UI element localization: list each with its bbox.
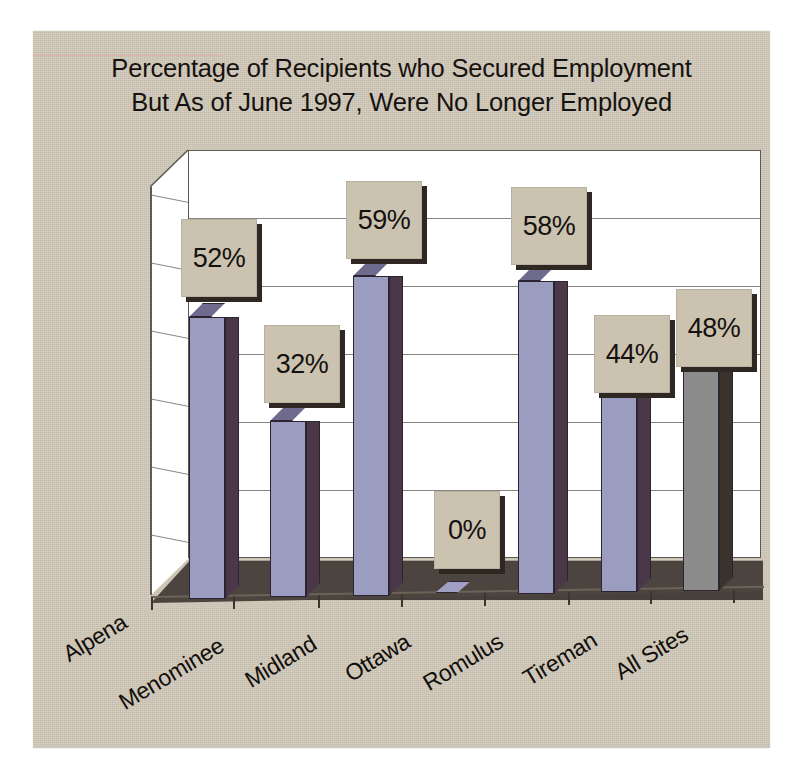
axis-tick	[650, 591, 652, 604]
bar-front-face	[683, 330, 719, 591]
axis-tick	[233, 596, 235, 609]
axis-tick	[401, 594, 403, 607]
data-label-menominee: 32%	[264, 325, 340, 403]
bar-side-face	[554, 281, 568, 594]
plot-area: 52% 32% 59% 0% 58% 44% 48%	[118, 141, 738, 621]
chart-title-line-1: Percentage of Recipients who Secured Emp…	[111, 54, 691, 82]
bar-side-face	[225, 317, 239, 599]
data-label-tireman-2: 44%	[594, 315, 670, 393]
cat-label-midland: Midland	[241, 632, 320, 692]
cat-label-ottawa: Ottawa	[341, 630, 414, 686]
cat-label-tireman: Tireman	[519, 628, 601, 690]
bar-front-face	[270, 421, 306, 597]
chart-panel: Percentage of Recipients who Secured Emp…	[33, 31, 770, 748]
bar-all-sites[interactable]	[683, 330, 719, 591]
cat-label-romulus: Romulus	[419, 630, 507, 695]
bar-front-face	[518, 281, 554, 594]
data-label-ottawa: 0%	[434, 491, 500, 569]
axis-tick	[151, 597, 153, 610]
axis-tick	[733, 590, 735, 603]
chart-title-line-2: But As of June 1997, Were No Longer Empl…	[33, 85, 770, 119]
data-label-midland: 59%	[346, 181, 422, 259]
cat-label-menominee: Menominee	[115, 634, 228, 714]
bar-ottawa[interactable]	[435, 593, 471, 595]
plot-side-wall	[151, 150, 189, 595]
cat-label-alpena: Alpena	[59, 610, 131, 666]
bar-side-face	[306, 421, 320, 597]
bar-side-face	[389, 276, 403, 596]
bar-front-face	[189, 317, 225, 599]
axis-tick	[484, 593, 486, 606]
axis-tick	[568, 592, 570, 605]
chart-page: Percentage of Recipients who Secured Emp…	[0, 0, 796, 778]
chart-title: Percentage of Recipients who Secured Emp…	[33, 51, 770, 119]
data-label-alpena: 52%	[181, 219, 257, 297]
bar-alpena[interactable]	[189, 317, 225, 599]
data-label-all-sites: 48%	[676, 289, 752, 367]
bar-side-face	[719, 330, 733, 591]
gridline	[189, 286, 760, 287]
data-label-tireman: 58%	[511, 187, 587, 265]
bar-front-face	[353, 276, 389, 596]
plot-left-axis-line	[150, 187, 152, 595]
cat-label-all-sites: All Sites	[611, 623, 692, 684]
bar-tireman[interactable]	[518, 281, 554, 594]
axis-tick	[318, 595, 320, 608]
bar-menominee[interactable]	[270, 421, 306, 597]
gridline	[189, 218, 760, 219]
bar-midland[interactable]	[353, 276, 389, 596]
